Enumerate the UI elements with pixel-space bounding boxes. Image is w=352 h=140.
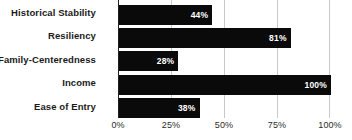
bar-row: Family-Centeredness28% xyxy=(118,50,330,73)
bar: 100% xyxy=(119,75,331,95)
bar-value-label: 81% xyxy=(269,28,287,48)
category-label: Historical Stability xyxy=(0,3,96,23)
x-axis-ticks: 0%25%50%75%100% xyxy=(118,120,330,136)
x-tick-label: 50% xyxy=(215,120,233,130)
bar-row: Ease of Entry38% xyxy=(118,97,330,120)
category-label: Family-Centeredness xyxy=(0,50,96,70)
bar-row: Income100% xyxy=(118,73,330,96)
bar: 28% xyxy=(119,51,178,71)
bar-value-label: 28% xyxy=(157,51,175,71)
bar: 38% xyxy=(119,98,200,118)
category-label: Resiliency xyxy=(0,26,96,46)
bar-chart: Historical Stability44%Resiliency81%Fami… xyxy=(0,0,352,140)
bar-value-label: 100% xyxy=(304,75,327,95)
bar-rows: Historical Stability44%Resiliency81%Fami… xyxy=(118,0,330,118)
bar-row: Resiliency81% xyxy=(118,26,330,49)
plot-area: Historical Stability44%Resiliency81%Fami… xyxy=(118,0,330,118)
category-label: Ease of Entry xyxy=(0,97,96,117)
x-tick-label: 0% xyxy=(111,120,124,130)
x-tick-label: 25% xyxy=(162,120,180,130)
bar: 81% xyxy=(119,28,291,48)
bar-value-label: 38% xyxy=(178,98,196,118)
category-label: Income xyxy=(0,73,96,93)
x-tick-label: 75% xyxy=(268,120,286,130)
bar-value-label: 44% xyxy=(191,5,209,25)
x-tick-label: 100% xyxy=(318,120,341,130)
bar-row: Historical Stability44% xyxy=(118,3,330,26)
bar: 44% xyxy=(119,5,212,25)
